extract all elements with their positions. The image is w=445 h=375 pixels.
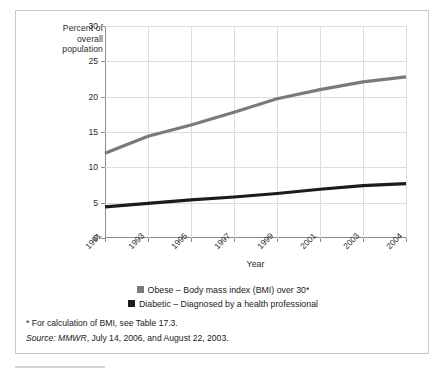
x-tick-mark-1997 <box>234 238 235 242</box>
y-tick-label-15: 15 <box>72 127 98 137</box>
legend-swatch-diabetic <box>128 300 135 307</box>
x-tick-mark-1991 <box>105 238 106 242</box>
chart-notes: * For calculation of BMI, see Table 17.3… <box>26 316 416 345</box>
x-tick-mark-1993 <box>148 238 149 242</box>
source-prefix: Source: <box>26 333 56 343</box>
y-tick-label-30: 30 <box>72 21 98 31</box>
series-line-diabetic <box>105 184 406 207</box>
figure-container: Percent of overall population 0510152025… <box>15 10 429 354</box>
y-tick-label-20: 20 <box>72 92 98 102</box>
source-line: Source: MMWR, July 14, 2006, and August … <box>26 331 416 346</box>
legend-item-diabetic: Diabetic – Diagnosed by a health profess… <box>16 297 430 311</box>
x-tick-mark-1995 <box>191 238 192 242</box>
y-tick-label-10: 10 <box>72 162 98 172</box>
y-axis-title-line-2: overall <box>24 34 103 45</box>
series-line-obese <box>105 77 406 153</box>
legend-label-obese: Obese – Body mass index (BMI) over 30* <box>148 285 310 295</box>
legend-label-diabetic: Diabetic – Diagnosed by a health profess… <box>139 299 318 309</box>
y-tick-label-25: 25 <box>72 56 98 66</box>
series-lines <box>105 26 406 238</box>
x-axis-title: Year <box>105 259 406 269</box>
x-tick-mark-2001 <box>320 238 321 242</box>
x-tick-mark-2004 <box>406 238 407 242</box>
bottom-rule <box>15 366 105 368</box>
legend-item-obese: Obese – Body mass index (BMI) over 30* <box>16 283 430 297</box>
chart-legend: Obese – Body mass index (BMI) over 30* D… <box>16 283 430 311</box>
source-publication: MMWR <box>58 333 87 343</box>
plot-area: 051015202530 199119931995199719992001200… <box>105 26 406 238</box>
x-tick-mark-1999 <box>277 238 278 242</box>
x-tick-mark-2003 <box>363 238 364 242</box>
footnote-line: * For calculation of BMI, see Table 17.3… <box>26 316 416 331</box>
source-rest: , July 14, 2006, and August 22, 2003. <box>87 333 229 343</box>
legend-swatch-obese <box>137 286 144 293</box>
y-tick-label-5: 5 <box>72 198 98 208</box>
gridline-x-2004 <box>406 26 407 238</box>
y-axis-title-line-3: population <box>24 44 103 55</box>
